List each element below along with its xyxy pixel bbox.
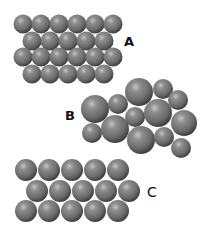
sphere [23, 65, 42, 84]
panel-b-spheres [81, 78, 197, 158]
sphere [41, 65, 60, 84]
panel-a-label: A [124, 35, 134, 48]
sphere [77, 65, 96, 84]
sphere [95, 180, 117, 202]
sphere [61, 159, 83, 181]
sphere [168, 90, 188, 110]
sphere [59, 65, 78, 84]
sphere [101, 115, 129, 143]
sphere [95, 65, 114, 84]
sphere [50, 15, 69, 34]
panel-a-spheres [14, 15, 123, 84]
sphere [50, 48, 69, 67]
sphere [84, 200, 106, 222]
sphere [125, 78, 153, 106]
sphere [82, 123, 102, 143]
sphere [95, 32, 114, 51]
sphere [104, 48, 123, 67]
sphere [86, 15, 105, 34]
sphere [72, 180, 94, 202]
sphere [38, 200, 60, 222]
sphere [108, 94, 128, 114]
sphere [81, 95, 109, 123]
sphere [14, 15, 33, 34]
sphere [144, 99, 172, 127]
sphere [15, 200, 37, 222]
sphere [32, 15, 51, 34]
sphere [154, 127, 174, 147]
panel-c-spheres [15, 159, 140, 222]
sphere [171, 110, 197, 136]
sphere [104, 15, 123, 34]
panel-b-label: B [65, 109, 75, 122]
sphere [77, 32, 96, 51]
sphere [61, 200, 83, 222]
sphere [68, 15, 87, 34]
sphere [68, 48, 87, 67]
sphere [107, 200, 129, 222]
sphere [26, 180, 48, 202]
sphere [41, 32, 60, 51]
sphere [23, 32, 42, 51]
sphere [32, 48, 51, 67]
sphere [171, 138, 191, 158]
sphere-packing-diagram [0, 0, 210, 252]
sphere [118, 180, 140, 202]
sphere [49, 180, 71, 202]
sphere [15, 159, 37, 181]
sphere [38, 159, 60, 181]
sphere [14, 48, 33, 67]
sphere [86, 48, 105, 67]
sphere [107, 159, 129, 181]
panel-c-label: C [147, 185, 157, 199]
sphere [59, 32, 78, 51]
sphere [127, 126, 155, 154]
sphere [84, 159, 106, 181]
